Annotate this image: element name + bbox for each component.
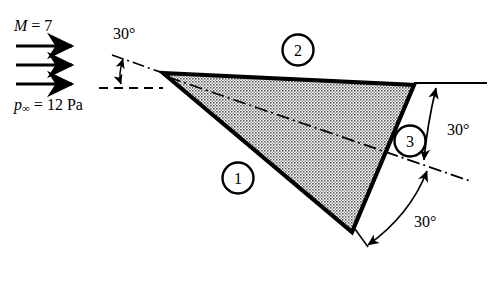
- mach-value: 7: [44, 17, 52, 34]
- pressure-symbol: p: [14, 96, 22, 113]
- upper-base-angle-arc: [424, 88, 436, 160]
- mach-symbol: M: [14, 17, 27, 34]
- region-3-callout: 3: [395, 126, 426, 157]
- lower-base-angle-arc: [368, 171, 427, 245]
- mach-number-label: M = 7: [14, 18, 52, 34]
- apex-angle-arc: [120, 59, 123, 84]
- upper-base-angle-label: 30°: [447, 122, 469, 138]
- freestream-pressure-label: p∞ = 12 Pa: [14, 97, 83, 114]
- region-2-label: 2: [294, 42, 302, 59]
- region-3-label: 3: [406, 133, 414, 150]
- bottom-vertex-leader-line: [355, 229, 368, 247]
- pressure-equals: =: [30, 96, 47, 113]
- mach-equals: =: [27, 17, 44, 34]
- wedge-body-fill: [163, 73, 414, 232]
- lower-base-angle-label: 30°: [414, 214, 436, 230]
- pressure-value: 12 Pa: [47, 96, 83, 113]
- pressure-subscript: ∞: [22, 102, 30, 114]
- region-1-label: 1: [234, 170, 242, 187]
- wedge-body: [163, 73, 414, 232]
- apex-deflection-angle-label: 30°: [113, 26, 135, 42]
- region-1-callout: 1: [223, 163, 254, 194]
- region-2-callout: 2: [283, 35, 314, 66]
- wedge-flow-diagram: 1 2 3: [0, 0, 499, 285]
- freestream-arrow-group: [16, 46, 72, 84]
